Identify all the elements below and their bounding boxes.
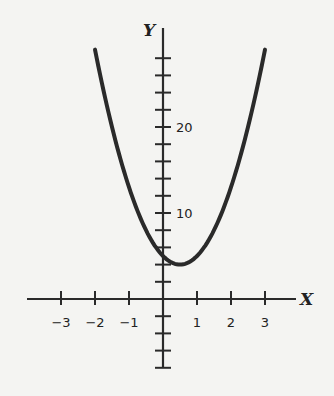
x-tick-label: 2 — [227, 315, 235, 330]
y-tick-label: 20 — [176, 120, 193, 135]
parabola-chart: −3−2−11231020 X Y — [0, 0, 334, 396]
y-axis-label: Y — [143, 20, 157, 40]
x-tick-label: 3 — [261, 315, 269, 330]
parabola-curve — [95, 50, 265, 265]
x-tick-label: 1 — [193, 315, 201, 330]
y-tick-label: 10 — [176, 206, 193, 221]
x-axis-label: X — [299, 289, 314, 309]
x-tick-label: −2 — [85, 315, 104, 330]
x-tick-label: −3 — [51, 315, 70, 330]
x-tick-label: −1 — [119, 315, 138, 330]
